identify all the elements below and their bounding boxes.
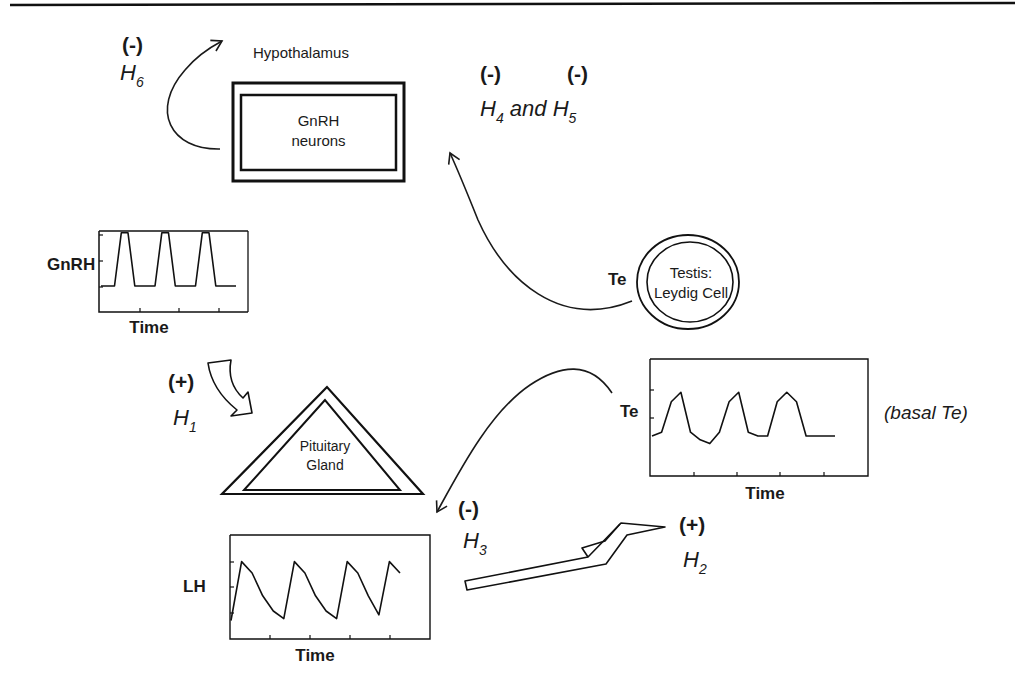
h6-sign: (-) <box>122 33 143 57</box>
h4-name: H <box>480 96 496 121</box>
h3-label: H3 <box>463 528 487 556</box>
h4-subscript: 4 <box>496 110 504 126</box>
gnrh-chart <box>99 231 248 312</box>
h1-stimulatory-arrow <box>208 360 252 416</box>
h3-sign: (-) <box>458 497 479 521</box>
h3-subscript: 3 <box>479 542 487 558</box>
h5-name: H <box>553 96 569 121</box>
lh-axis-label: LH <box>183 577 206 597</box>
testis-line1: Testis: <box>645 263 737 283</box>
h2-stimulatory-arrow <box>465 523 665 590</box>
h4-h5-feedback-arrow <box>450 153 632 309</box>
h6-name: H <box>120 60 136 85</box>
h2-sign: (+) <box>679 513 705 537</box>
lh-chart <box>230 535 430 639</box>
h5-sign: (-) <box>567 62 588 86</box>
and-joiner: and <box>510 96 547 121</box>
te-chart <box>650 359 868 476</box>
te-time-label: Time <box>725 484 805 504</box>
basal-te-annotation: (basal Te) <box>884 402 968 424</box>
h2-subscript: 2 <box>699 561 707 577</box>
h2-name: H <box>683 547 699 572</box>
header-rule <box>10 3 1015 5</box>
h5-subscript: 5 <box>569 110 577 126</box>
pituitary-label: Pituitary Gland <box>277 437 373 475</box>
te-axis-label: Te <box>620 402 639 422</box>
h4-sign: (-) <box>480 62 501 86</box>
h3-name: H <box>463 528 479 553</box>
h6-feedback-arrow <box>167 41 222 149</box>
h1-label: H1 <box>173 405 197 433</box>
gnrh-neurons-line2: neurons <box>241 131 396 151</box>
h2-label: H2 <box>683 547 707 575</box>
hypothalamus-title: Hypothalamus <box>253 44 349 61</box>
h1-subscript: 1 <box>189 419 197 435</box>
testis-line2: Leydig Cell <box>645 283 737 303</box>
pituitary-line1: Pituitary <box>277 437 373 456</box>
testis-label: Testis: Leydig Cell <box>645 263 737 303</box>
gnrh-neurons-line1: GnRH <box>241 111 396 131</box>
h3-feedback-arrow <box>437 369 612 512</box>
gnrh-neurons-label: GnRH neurons <box>241 111 396 151</box>
pituitary-line2: Gland <box>277 456 373 475</box>
h1-name: H <box>173 405 189 430</box>
h1-sign: (+) <box>168 370 194 394</box>
te-output-label: Te <box>608 270 627 290</box>
h6-subscript: 6 <box>136 74 144 90</box>
h4-h5-label: H4 and H5 <box>480 96 576 124</box>
lh-time-label: Time <box>275 646 355 666</box>
gnrh-axis-label: GnRH <box>47 255 95 275</box>
h6-label: H6 <box>120 60 144 88</box>
gnrh-time-label: Time <box>99 318 199 338</box>
